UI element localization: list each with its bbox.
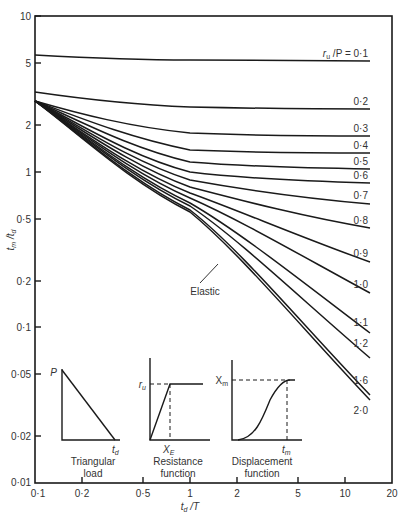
- x-axis-title: td /T: [181, 501, 200, 513]
- curve-label: 1·6: [354, 375, 369, 386]
- y-tick-label: 5: [25, 58, 31, 69]
- x-tick-label: 1: [187, 488, 193, 499]
- svg-text:tm /td: tm /td: [5, 228, 17, 250]
- curve-label: 0·7: [354, 190, 369, 201]
- curve-label: 0·6: [354, 170, 369, 181]
- y-tick-label: 2: [25, 120, 31, 131]
- inset-title: function: [244, 468, 279, 479]
- curves: [35, 55, 370, 400]
- x-tick-label: 2: [234, 488, 240, 499]
- curve-label: 1·0: [354, 279, 369, 290]
- y-tick-label: 0·1: [17, 322, 32, 333]
- inset-title: Displacement: [232, 456, 293, 467]
- curve-label: 1·1: [354, 317, 369, 328]
- inset-label-td: td: [112, 444, 120, 456]
- inset-displacement-function: Xm tm Displacement function: [215, 360, 302, 479]
- x-tick-label: 20: [386, 488, 398, 499]
- inset-label-p: P: [50, 367, 57, 378]
- curve-0-1: [35, 55, 370, 61]
- inset-resistance-function: ru XE Resistance function: [139, 358, 210, 479]
- curve-labels: ru /P = 0·1 0·2 0·3 0·4 0·5 0·6 0·7 0·8 …: [323, 48, 369, 416]
- curve-label: 0·9: [354, 248, 369, 259]
- inset-label-xe: XE: [162, 444, 175, 456]
- inset-title: load: [84, 468, 103, 479]
- chart-canvas: 10 5 2 1 0·5 0·2 0·1 0·05 0·02 0·01 tm /…: [0, 0, 405, 514]
- y-tick-label: 0·02: [11, 431, 31, 442]
- y-axis-title: tm /td: [5, 228, 17, 250]
- elastic-leader-line: [200, 264, 218, 283]
- curve-label: 0·4: [354, 140, 369, 151]
- y-tick-label: 0·5: [17, 214, 32, 225]
- curve-label: 0·2: [354, 96, 369, 107]
- x-tick-label: 10: [339, 488, 351, 499]
- curve-0-6: [35, 101, 370, 183]
- inset-triangular-load: P td Triangular load: [50, 367, 120, 479]
- x-tick-label: 0·5: [136, 488, 151, 499]
- inset-title: Triangular: [71, 456, 116, 467]
- y-tick-label: 1: [25, 167, 31, 178]
- plot-frame: [35, 16, 392, 483]
- x-tick-label: 0·1: [31, 488, 46, 499]
- elastic-label: Elastic: [190, 286, 219, 297]
- inset-title: Resistance: [153, 456, 203, 467]
- y-tick-label: 0·2: [17, 276, 32, 287]
- curve-label: 2·0: [354, 405, 369, 416]
- inset-label-ru: ru: [139, 379, 146, 391]
- x-tick-label: 5: [295, 488, 301, 499]
- legend-head: ru /P = 0·1: [323, 48, 369, 60]
- inset-label-xm: Xm: [215, 375, 228, 387]
- curve-1-6: [35, 101, 370, 395]
- curve-label: 0·5: [354, 156, 369, 167]
- y-tick-label: 10: [20, 11, 32, 22]
- curve-label: 0·3: [354, 123, 369, 134]
- curve-2-0: [35, 101, 370, 400]
- curve-0-2: [35, 92, 370, 109]
- x-axis: 0·1 0·2 0·5 1 2 5 10 20: [31, 477, 398, 499]
- curve-label: 1·2: [354, 338, 369, 349]
- inset-label-tm: tm: [282, 444, 291, 456]
- y-tick-label: 0·01: [11, 477, 31, 488]
- y-tick-label: 0·05: [11, 369, 31, 380]
- x-tick-label: 0·2: [75, 488, 90, 499]
- curve-label: 0·8: [354, 215, 369, 226]
- inset-title: function: [160, 468, 195, 479]
